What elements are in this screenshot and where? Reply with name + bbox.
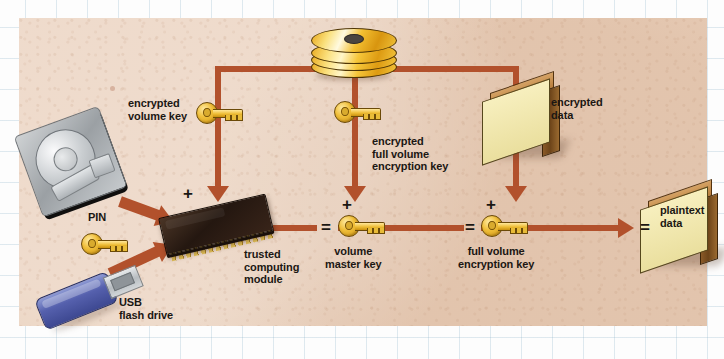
volume-master-key-icon: [338, 215, 384, 235]
plus-fvek: +: [486, 196, 496, 213]
diagram-root: encrypted volume key encrypted full volu…: [0, 0, 724, 359]
plus-vmk: +: [342, 196, 352, 213]
label-encrypted-volume-key: encrypted volume key: [128, 97, 187, 122]
label-encrypted-full-volume-encryption-key: encrypted full volume encryption key: [372, 135, 448, 173]
label-pin: PIN: [88, 211, 106, 224]
label-full-volume-encryption-key: full volume encryption key: [458, 245, 534, 270]
paper-speck: [110, 86, 115, 91]
disc-down-line: [352, 74, 358, 193]
chain-seg-vmk-to-eq2: [438, 225, 464, 231]
encrypted-data-folder-icon: [482, 82, 560, 160]
chain-seg-fvek-to-plaintext: [581, 225, 621, 231]
chain-seg-chip-to-eq1: [273, 225, 317, 231]
plaintext-data-folder-icon: [640, 190, 718, 268]
label-trusted-computing-module: trusted computing module: [244, 248, 299, 286]
label-usb-flash-drive: USB flash drive: [119, 296, 173, 321]
encrypted-volume-key-icon: [196, 102, 242, 122]
equals-plaintext: =: [640, 219, 650, 236]
full-volume-encryption-key-icon: [481, 215, 527, 235]
encrypted-fvek-key-icon: [334, 101, 380, 121]
plaintext-arrowhead: [618, 218, 634, 238]
folder-down-arrowhead: [505, 186, 527, 202]
disc-stack-icon: [311, 26, 395, 78]
pin-key-icon: [81, 233, 127, 253]
label-plaintext-data: plaintext data: [660, 204, 704, 229]
equals-vmk: =: [321, 219, 331, 236]
label-encrypted-data: encrypted data: [551, 96, 603, 121]
label-volume-master-key: volume master key: [325, 245, 382, 270]
left-down-arrowhead: [207, 186, 229, 202]
plus-chip: +: [183, 185, 193, 202]
equals-fvek: =: [465, 219, 475, 236]
left-down-line: [215, 66, 221, 193]
